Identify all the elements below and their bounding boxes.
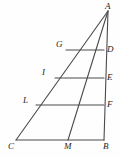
vertex-label-e: E (107, 73, 113, 82)
vertex-label-c: C (8, 142, 14, 151)
segment-c-a (16, 11, 108, 140)
geometry-canvas (0, 0, 121, 158)
cevian-a-m (68, 11, 108, 140)
vertex-label-f: F (107, 100, 113, 109)
geometry-figure: ABCMDEFGIL (0, 0, 121, 158)
segment-layer (16, 11, 108, 140)
vertex-label-d: D (107, 45, 114, 54)
vertex-label-a: A (105, 2, 111, 11)
vertex-label-i: I (42, 68, 45, 77)
vertex-label-l: L (23, 96, 28, 105)
vertex-label-b: B (103, 142, 109, 151)
vertex-label-m: M (64, 142, 72, 151)
vertex-label-g: G (56, 40, 63, 49)
